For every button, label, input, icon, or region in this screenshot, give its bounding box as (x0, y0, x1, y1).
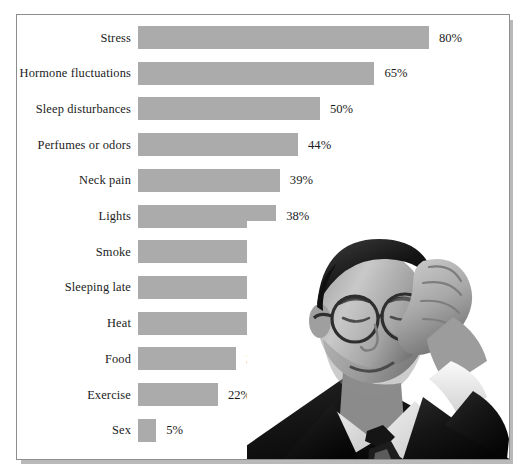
bar (138, 312, 247, 335)
chart-row: Sleeping late32% (17, 276, 509, 299)
chart-row: Hormone fluctuations65% (17, 62, 509, 85)
bar-value-label: 65% (384, 67, 407, 80)
bar-value-label: 80% (439, 31, 462, 44)
bar-category-label: Food (17, 353, 131, 365)
bar-value-label: 39% (290, 174, 313, 187)
bar-category-label: Lights (17, 210, 131, 222)
chart-row: Heat30% (17, 312, 509, 335)
bar-category-label: Exercise (17, 388, 131, 400)
bar (138, 240, 269, 263)
bar-value-label: 36% (279, 245, 302, 258)
bar-value-label: 32% (264, 281, 287, 294)
bar-value-label: 38% (286, 210, 309, 223)
bar-category-label: Heat (17, 317, 131, 329)
bar-value-label: 30% (257, 317, 280, 330)
bar (138, 419, 156, 442)
bar-category-label: Perfumes or odors (17, 138, 131, 150)
bar (138, 347, 236, 370)
bar-value-label: 22% (228, 388, 251, 401)
chart-row: Lights38% (17, 205, 509, 228)
bar-chart-figure: Stress80%Hormone fluctuations65%Sleep di… (0, 0, 528, 475)
bar-value-label: 5% (166, 424, 183, 437)
bar (138, 169, 280, 192)
bar (138, 276, 254, 299)
chart-row: Exercise22% (17, 383, 509, 406)
bar-category-label: Hormone fluctuations (17, 67, 131, 79)
chart-row: Food27% (17, 347, 509, 370)
chart-row: Neck pain39% (17, 169, 509, 192)
bar-category-label: Stress (17, 31, 131, 43)
bar-category-label: Sex (17, 424, 131, 436)
chart-row: Stress80% (17, 26, 509, 49)
chart-row: Perfumes or odors44% (17, 133, 509, 156)
bar-category-label: Neck pain (17, 174, 131, 186)
bar (138, 97, 320, 120)
bar (138, 383, 218, 406)
bar (138, 62, 374, 85)
bar-value-label: 44% (308, 138, 331, 151)
chart-row: Sleep disturbances50% (17, 97, 509, 120)
chart-row: Smoke36% (17, 240, 509, 263)
bar (138, 26, 429, 49)
bar-category-label: Smoke (17, 245, 131, 257)
chart-frame: Stress80%Hormone fluctuations65%Sleep di… (16, 14, 510, 460)
chart-row: Sex5% (17, 419, 509, 442)
bar-category-label: Sleep disturbances (17, 103, 131, 115)
bar-value-label: 27% (246, 353, 269, 366)
bar (138, 205, 276, 228)
bar-category-label: Sleeping late (17, 281, 131, 293)
bar (138, 133, 298, 156)
bar-value-label: 50% (330, 103, 353, 116)
chart-plot-area: Stress80%Hormone fluctuations65%Sleep di… (17, 15, 509, 459)
